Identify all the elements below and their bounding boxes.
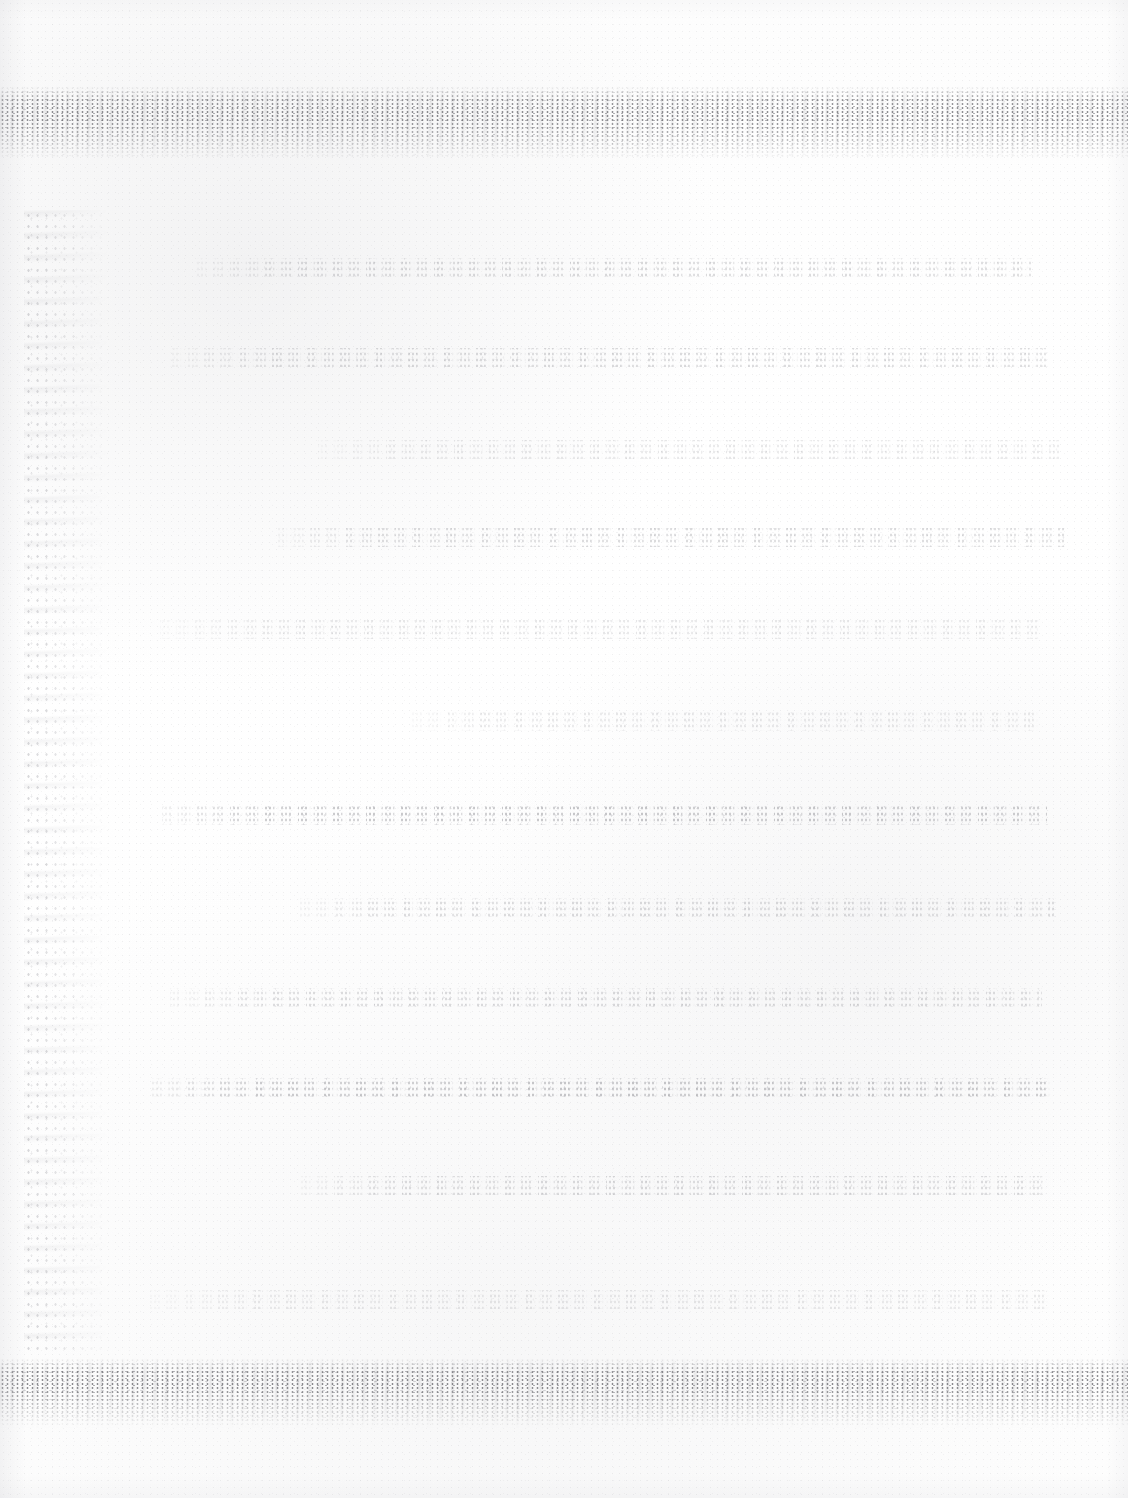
paper-grain-texture <box>0 0 1128 1498</box>
scanned-document-page: Near-blank scanned sheet; all body text … <box>0 0 1128 1498</box>
